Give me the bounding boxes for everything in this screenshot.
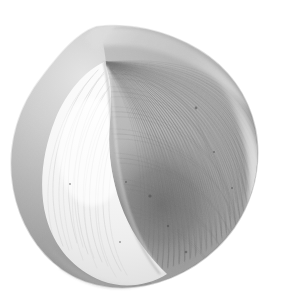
photo-canvas: Grayscale photograph of an ovoid bivalve… bbox=[0, 0, 281, 298]
seashell-photograph bbox=[0, 0, 281, 298]
